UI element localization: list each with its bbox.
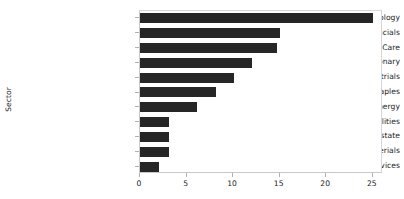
bar xyxy=(140,132,169,142)
y-tick-mark xyxy=(135,62,139,63)
y-tick-mark xyxy=(135,166,139,167)
bar-row xyxy=(140,159,381,174)
x-tick-mark xyxy=(139,173,140,177)
y-tick-mark xyxy=(135,121,139,122)
bar xyxy=(140,43,277,53)
bar-row xyxy=(140,41,381,56)
y-tick-mark xyxy=(135,136,139,137)
x-tick-mark xyxy=(186,173,187,177)
y-tick-mark xyxy=(135,106,139,107)
x-tick-label: 15 xyxy=(264,179,294,188)
bar-row xyxy=(140,70,381,85)
y-tick-mark xyxy=(135,47,139,48)
y-tick-mark xyxy=(135,77,139,78)
bar xyxy=(140,73,234,83)
bar-row xyxy=(140,85,381,100)
x-tick-label: 20 xyxy=(310,179,340,188)
x-tick-mark xyxy=(279,173,280,177)
y-tick-mark xyxy=(135,151,139,152)
x-tick-label: 10 xyxy=(217,179,247,188)
bar-chart-figure: Sector Information TechnologyFinancialsH… xyxy=(0,0,404,199)
x-tick-label: 25 xyxy=(357,179,387,188)
x-tick-label: 5 xyxy=(171,179,201,188)
bar-row xyxy=(140,26,381,41)
x-tick-mark xyxy=(325,173,326,177)
bar xyxy=(140,147,169,157)
bar xyxy=(140,58,252,68)
bar-row xyxy=(140,130,381,145)
plot-area xyxy=(139,10,382,173)
bar xyxy=(140,162,159,172)
bar xyxy=(140,13,373,23)
bar xyxy=(140,102,197,112)
bar xyxy=(140,28,280,38)
bar-row xyxy=(140,115,381,130)
bar-row xyxy=(140,144,381,159)
x-tick-mark xyxy=(232,173,233,177)
bar-row xyxy=(140,11,381,26)
y-tick-mark xyxy=(135,92,139,93)
x-tick-label: 0 xyxy=(124,179,154,188)
bar xyxy=(140,87,216,97)
bar xyxy=(140,117,169,127)
y-tick-mark xyxy=(135,17,139,18)
x-tick-mark xyxy=(372,173,373,177)
bar-row xyxy=(140,100,381,115)
y-tick-mark xyxy=(135,32,139,33)
bar-row xyxy=(140,55,381,70)
